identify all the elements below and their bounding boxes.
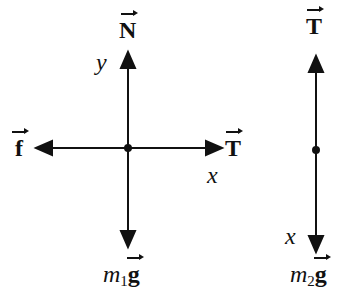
body1-point xyxy=(125,145,131,151)
friction-force-arrowhead xyxy=(36,141,52,155)
weight-force-label-body2: m2g xyxy=(290,262,327,289)
tension-force-symbol-body1: T xyxy=(225,136,241,160)
tension-force-label-body1: T xyxy=(225,136,241,160)
mass-subscript: 1 xyxy=(120,273,128,289)
normal-force-arrowhead xyxy=(121,52,135,68)
friction-force-symbol: f xyxy=(15,136,23,160)
mass-subscript: 2 xyxy=(307,273,315,289)
mass-symbol: m xyxy=(103,261,120,287)
tension-force-arrowhead-body2 xyxy=(309,56,323,72)
friction-force-label: f xyxy=(15,136,23,160)
free-body-diagram-canvas xyxy=(0,0,350,300)
mass-symbol: m xyxy=(290,261,307,287)
weight-force-arrowhead-body1 xyxy=(121,231,135,247)
tension-force-label-body2: T xyxy=(306,14,322,38)
x-axis-label-body2: x xyxy=(285,224,296,248)
normal-force-label: N xyxy=(119,18,136,42)
tension-force-symbol-body2: T xyxy=(306,14,322,38)
normal-force-symbol: N xyxy=(119,18,136,42)
x-axis-label-body1: x xyxy=(207,163,218,187)
gravity-vector-symbol: g xyxy=(315,262,327,286)
y-axis-label: y xyxy=(96,50,107,74)
body2-point xyxy=(313,147,319,153)
gravity-vector-symbol: g xyxy=(128,262,140,286)
weight-force-arrowhead-body2 xyxy=(309,236,323,252)
weight-force-label-body1: m1g xyxy=(103,262,140,289)
tension-force-arrowhead-body1 xyxy=(206,141,222,155)
